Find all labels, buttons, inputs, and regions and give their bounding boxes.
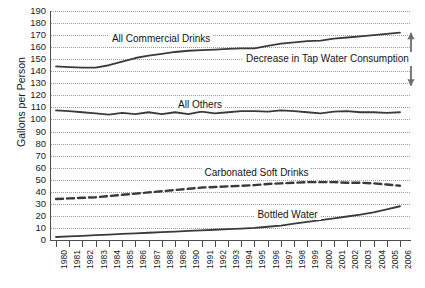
annotation-label-tap-water: Decrease in Tap Water Consumption	[243, 52, 412, 66]
series-line-bottled-water	[56, 206, 400, 237]
chart-container: Gallons per Person 190180170160150140130…	[0, 0, 425, 288]
series-line-all-others	[56, 110, 400, 114]
series-label-carbonated-soft-drinks: Carbonated Soft Drinks	[202, 167, 312, 179]
series-label-all-others: All Others	[175, 99, 225, 111]
series-line-carbonated-soft-drinks	[56, 182, 400, 199]
arrow-head-up	[407, 33, 414, 40]
series-label-all-commercial-drinks: All Commercial Drinks	[109, 33, 213, 45]
series-label-bottled-water: Bottled Water	[254, 209, 320, 221]
arrow-head-down	[407, 79, 414, 86]
